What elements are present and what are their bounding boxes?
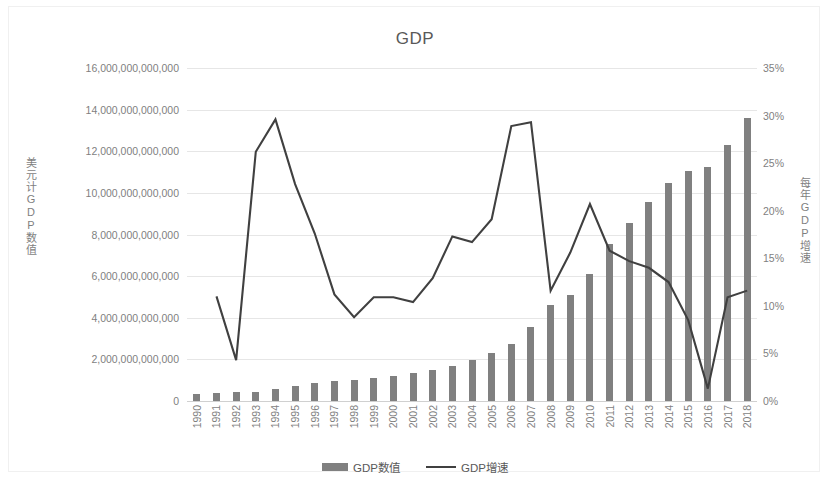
category-tick-label: 2004 xyxy=(466,405,478,428)
category-tick-label: 1994 xyxy=(269,405,281,428)
plot-area xyxy=(187,68,757,401)
right-axis-tick-label: 30% xyxy=(763,110,809,122)
legend-item-line: GDP增速 xyxy=(426,459,508,475)
left-axis-tick-label: 14,000,000,000,000 xyxy=(19,104,179,116)
category-axis-labels: 1990199119921993199419951996199719981999… xyxy=(187,405,757,455)
category-tick-label: 2014 xyxy=(663,405,675,428)
category-tick-label: 2018 xyxy=(741,405,753,428)
legend-line-swatch-icon xyxy=(426,466,456,469)
category-tick-label: 1995 xyxy=(289,405,301,428)
category-tick-label: 2016 xyxy=(702,405,714,428)
chart-container: GDP 美元计GDP数值 每年GDP增速 02,000,000,000,0004… xyxy=(8,6,820,472)
category-tick-label: 2002 xyxy=(427,405,439,428)
left-axis-tick-label: 4,000,000,000,000 xyxy=(19,312,179,324)
category-tick-label: 2012 xyxy=(623,405,635,428)
category-tick-label: 1991 xyxy=(210,405,222,428)
left-axis-tick-label: 10,000,000,000,000 xyxy=(19,187,179,199)
left-axis-tick-label: 12,000,000,000,000 xyxy=(19,145,179,157)
left-axis-tick-label: 8,000,000,000,000 xyxy=(19,229,179,241)
line-series xyxy=(187,68,757,401)
right-axis-tick-label: 10% xyxy=(763,300,809,312)
category-tick-label: 2008 xyxy=(545,405,557,428)
category-tick-label: 2000 xyxy=(387,405,399,428)
category-tick-label: 2006 xyxy=(505,405,517,428)
category-tick-label: 2011 xyxy=(604,405,616,428)
left-axis-tick-label: 16,000,000,000,000 xyxy=(19,62,179,74)
category-tick-label: 1990 xyxy=(191,405,203,428)
category-tick-label: 2009 xyxy=(564,405,576,428)
category-tick-label: 2013 xyxy=(643,405,655,428)
category-tick-label: 1998 xyxy=(348,405,360,428)
left-axis-tick-label: 0 xyxy=(19,395,179,407)
chart-title: GDP xyxy=(9,29,821,49)
category-tick-label: 2007 xyxy=(525,405,537,428)
legend-bar-swatch-icon xyxy=(322,463,348,471)
left-axis-ticks: 02,000,000,000,0004,000,000,000,0006,000… xyxy=(17,68,179,401)
category-tick-label: 1993 xyxy=(250,405,262,428)
category-axis-line xyxy=(187,401,757,402)
category-tick-label: 2010 xyxy=(584,405,596,428)
category-tick-label: 1992 xyxy=(230,405,242,428)
right-axis-tick-label: 15% xyxy=(763,252,809,264)
category-tick-label: 2005 xyxy=(486,405,498,428)
right-axis-tick-label: 0% xyxy=(763,395,809,407)
right-axis-tick-label: 5% xyxy=(763,347,809,359)
right-axis-tick-label: 35% xyxy=(763,62,809,74)
chart-legend: GDP数值 GDP增速 xyxy=(9,459,821,475)
legend-bar-label: GDP数值 xyxy=(353,459,400,475)
category-tick-label: 2003 xyxy=(446,405,458,428)
category-tick-label: 1997 xyxy=(328,405,340,428)
right-axis-ticks: 0%5%10%15%20%25%30%35% xyxy=(763,68,813,401)
category-tick-label: 2001 xyxy=(407,405,419,428)
category-tick-label: 2015 xyxy=(682,405,694,428)
legend-line-label: GDP增速 xyxy=(461,459,508,475)
category-tick-label: 1996 xyxy=(309,405,321,428)
category-tick-label: 1999 xyxy=(368,405,380,428)
right-axis-tick-label: 25% xyxy=(763,157,809,169)
legend-item-bar: GDP数值 xyxy=(322,459,400,475)
right-axis-tick-label: 20% xyxy=(763,205,809,217)
left-axis-tick-label: 2,000,000,000,000 xyxy=(19,353,179,365)
category-tick-label: 2017 xyxy=(722,405,734,428)
left-axis-tick-label: 6,000,000,000,000 xyxy=(19,270,179,282)
